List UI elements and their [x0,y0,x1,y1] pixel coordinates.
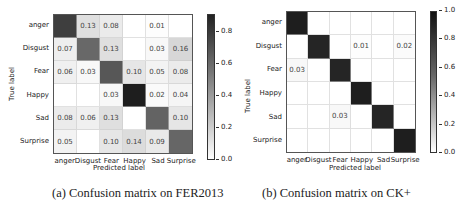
matrix-cell [394,59,415,82]
caption-fer2013: (a) Confusion matrix on FER2013 [52,186,224,201]
matrix-cell [77,84,100,107]
x-tick-label: Surprise [388,156,422,164]
colorbar-tick-label: 0.8 [221,27,232,35]
y-tick-label: anger [5,21,49,29]
matrix-cell [100,61,123,84]
matrix-cell [330,82,351,105]
matrix-cell [77,130,100,153]
x-axis-title: Predicted label [93,164,145,172]
colorbar-tick-label: 0.8 [444,34,455,42]
matrix-cell [287,82,308,105]
matrix-cell [308,59,329,82]
matrix-cell [287,129,308,152]
matrix-cell [123,107,146,130]
figure-ckplus: True label angerDisgustFearHappySadSurpr… [240,0,460,208]
matrix-cell [123,38,146,61]
matrix-cell: 0.03 [146,38,169,61]
matrix-cell: 0.14 [123,130,146,153]
colorbar-tick-label: 0.6 [444,63,455,71]
matrix-cell [372,35,393,58]
matrix-cell: 0.09 [146,130,169,153]
y-tick-label: Disgust [238,42,282,50]
y-tick-label: Fear [5,67,49,75]
matrix-cell [394,129,415,152]
matrix-cell [351,12,372,35]
matrix-cell [330,59,351,82]
matrix-cell [146,107,169,130]
matrix-cell [330,12,351,35]
y-tick-label: Fear [238,65,282,73]
matrix-cell [372,82,393,105]
matrix-cell [308,12,329,35]
matrix-cell [394,12,415,35]
matrix-cell: 0.10 [100,130,123,153]
matrix-cell: 0.07 [54,38,77,61]
matrix-cell: 0.03 [77,61,100,84]
colorbar [430,11,437,153]
matrix-cell [77,38,100,61]
x-axis-title: Predicted label [329,164,381,172]
matrix-cell: 0.05 [146,61,169,84]
matrix-cell: 0.06 [77,107,100,130]
matrix-cell [169,130,192,153]
figure-fer2013: True label angerDisgustFearHappySadSurpr… [0,0,240,208]
matrix-cell [287,105,308,128]
matrix-cell [372,129,393,152]
matrix-cell [372,59,393,82]
matrix-cell [308,82,329,105]
matrix-cell: 0.06 [54,61,77,84]
matrix-cell: 0.13 [100,38,123,61]
matrix-cell: 0.03 [100,84,123,107]
matrix-cell: 0.02 [394,35,415,58]
matrix-cell: 0.04 [169,84,192,107]
matrix-cell: 0.01 [146,15,169,38]
matrix-cell [394,82,415,105]
matrix-cell [287,35,308,58]
colorbar [207,14,215,160]
colorbar-tick-label: 0.4 [444,91,455,99]
y-tick-label: Sad [5,114,49,122]
caption-ckplus: (b) Confusion matrix on CK+ [262,186,411,201]
matrix-cell [308,35,329,58]
colorbar-tick-label: 0.2 [444,120,455,128]
matrix-cell [351,105,372,128]
matrix-cell [308,129,329,152]
colorbar-tick-label: 1.0 [444,6,455,14]
y-tick-label: Sad [238,113,282,121]
matrix-cell [372,12,393,35]
matrix-cell [169,15,192,38]
y-tick-label: Happy [5,91,49,99]
matrix-cell [372,105,393,128]
matrix-cell: 0.02 [146,84,169,107]
y-tick-label: Surprise [5,137,49,145]
matrix-cell: 0.10 [123,61,146,84]
matrix-cell: 0.08 [169,61,192,84]
x-tick-label: Surprise [164,157,198,165]
matrix-cell [308,105,329,128]
colorbar-tick-label: 0.4 [221,91,232,99]
matrix-cell: 0.16 [169,38,192,61]
matrix-cell [287,12,308,35]
confusion-matrix-grid: 0.010.020.030.03 [286,11,416,153]
matrix-cell [351,129,372,152]
matrix-cell [123,15,146,38]
matrix-cell: 0.05 [54,130,77,153]
matrix-cell: 0.08 [54,107,77,130]
matrix-cell [394,105,415,128]
matrix-cell [330,129,351,152]
colorbar-tick-label: 0.6 [221,59,232,67]
y-tick-label: Disgust [5,44,49,52]
matrix-cell: 0.10 [169,107,192,130]
matrix-cell [54,15,77,38]
colorbar-tick-label: 0.0 [221,155,232,163]
matrix-cell: 0.13 [100,107,123,130]
y-tick-label: anger [238,18,282,26]
matrix-cell: 0.03 [330,105,351,128]
confusion-matrix-grid: 0.130.080.010.070.130.030.160.060.030.10… [53,14,193,154]
y-tick-label: Happy [238,89,282,97]
matrix-cell [351,82,372,105]
matrix-cell: 0.08 [100,15,123,38]
colorbar-tick-label: 0.0 [444,148,455,156]
matrix-cell [123,84,146,107]
matrix-cell: 0.13 [77,15,100,38]
